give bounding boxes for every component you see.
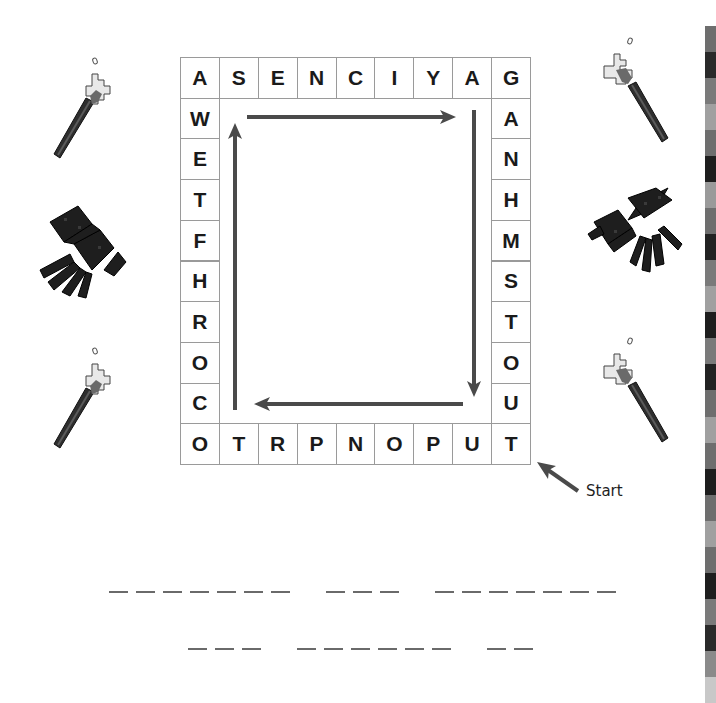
letter-blank (543, 591, 562, 593)
start-arrow (548, 470, 578, 491)
letter-blank (109, 591, 128, 593)
strip-segment (705, 26, 716, 52)
strip-segment (705, 521, 716, 547)
strip-segment (705, 599, 716, 625)
start-label: Start (586, 482, 623, 500)
answer-word-blank (326, 591, 399, 593)
letter-blank (297, 648, 316, 650)
letter-blank (217, 591, 236, 593)
letter-blank (405, 648, 424, 650)
letter-blank (188, 648, 207, 650)
strip-segment (705, 312, 716, 338)
letter-blank (570, 591, 589, 593)
strip-segment (705, 182, 716, 208)
letter-blank (487, 648, 506, 650)
strip-segment (705, 338, 716, 364)
letter-blank (190, 591, 209, 593)
strip-segment (705, 625, 716, 651)
strip-segment (705, 417, 716, 443)
letter-blank (514, 648, 533, 650)
letter-blank (380, 591, 399, 593)
letter-blank (242, 648, 261, 650)
strip-segment (705, 573, 716, 599)
strip-segment (705, 469, 716, 495)
letter-blank (163, 591, 182, 593)
letter-blank (136, 591, 155, 593)
strip-segment (705, 104, 716, 130)
answer-word-blank (188, 648, 261, 650)
page-edge-strip (705, 0, 716, 703)
answer-word-blank (109, 591, 290, 593)
answer-line-2 (0, 648, 716, 650)
strip-segment (705, 78, 716, 104)
letter-blank (489, 591, 508, 593)
letter-blank (432, 648, 451, 650)
direction-arrows (0, 0, 716, 703)
answer-word-blank (297, 648, 451, 650)
strip-segment (705, 52, 716, 78)
letter-blank (353, 591, 372, 593)
strip-segment (705, 234, 716, 260)
letter-blank (244, 591, 263, 593)
strip-segment (705, 547, 716, 573)
answer-line-1 (0, 591, 716, 593)
strip-segment (705, 651, 716, 677)
strip-segment (705, 677, 716, 703)
letter-blank (326, 591, 345, 593)
answer-word-blank (487, 648, 533, 650)
letter-blank (462, 591, 481, 593)
strip-segment (705, 156, 716, 182)
strip-segment (705, 495, 716, 521)
strip-segment (705, 364, 716, 390)
strip-segment (705, 0, 716, 26)
strip-segment (705, 286, 716, 312)
letter-blank (597, 591, 616, 593)
letter-blank (215, 648, 234, 650)
letter-blank (271, 591, 290, 593)
letter-blank (324, 648, 343, 650)
strip-segment (705, 130, 716, 156)
strip-segment (705, 390, 716, 416)
letter-blank (435, 591, 454, 593)
strip-segment (705, 443, 716, 469)
letter-blank (516, 591, 535, 593)
strip-segment (705, 260, 716, 286)
letter-blank (351, 648, 370, 650)
strip-segment (705, 208, 716, 234)
letter-blank (378, 648, 397, 650)
answer-word-blank (435, 591, 616, 593)
